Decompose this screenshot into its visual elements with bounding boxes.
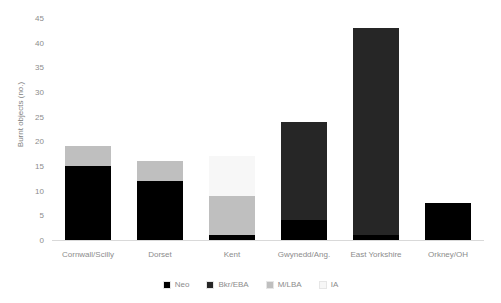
bar-cornwall-scilly[interactable] <box>65 146 111 240</box>
bar-orkney-oh[interactable] <box>425 203 471 240</box>
bar-segment-neo[interactable] <box>353 235 399 240</box>
bar-segment-m-lba[interactable] <box>209 196 255 235</box>
y-axis-tick-15: 15 <box>0 162 44 171</box>
chart-legend: NeoBkr/EBAM/LBAIA <box>0 281 501 289</box>
legend-item-bkr-eba[interactable]: Bkr/EBA <box>206 281 248 289</box>
bar-segment-neo[interactable] <box>65 166 111 240</box>
y-axis-tick-10: 10 <box>0 186 44 195</box>
bar-segment-bkr-eba[interactable] <box>281 122 327 221</box>
plot-area <box>52 18 484 240</box>
y-axis-tick-40: 40 <box>0 38 44 47</box>
bar-kent[interactable] <box>209 156 255 240</box>
chart-container: Burnt objects (no.) 454035302520151050 C… <box>0 0 501 303</box>
bar-segment-m-lba[interactable] <box>65 146 111 166</box>
bar-segment-neo[interactable] <box>425 203 471 240</box>
legend-item-ia[interactable]: IA <box>319 281 339 289</box>
legend-label: IA <box>331 281 339 289</box>
bar-segment-ia[interactable] <box>209 156 255 195</box>
x-axis-label-4: East Yorkshire <box>350 250 401 259</box>
x-axis-label-5: Orkney/OH <box>428 250 468 259</box>
legend-swatch-icon <box>266 281 274 289</box>
bar-segment-m-lba[interactable] <box>137 161 183 181</box>
x-axis-label-2: Kent <box>224 250 240 259</box>
legend-swatch-icon <box>319 281 327 289</box>
bar-segment-neo[interactable] <box>281 220 327 240</box>
bar-segment-neo[interactable] <box>209 235 255 240</box>
legend-label: M/LBA <box>278 281 302 289</box>
legend-item-m-lba[interactable]: M/LBA <box>266 281 302 289</box>
bar-segment-bkr-eba[interactable] <box>353 28 399 235</box>
bar-dorset[interactable] <box>137 161 183 240</box>
y-axis-tick-35: 35 <box>0 63 44 72</box>
y-axis-tick-20: 20 <box>0 137 44 146</box>
legend-label: Neo <box>175 281 190 289</box>
x-axis-label-3: Gwynedd/Ang. <box>278 250 330 259</box>
y-axis-tick-30: 30 <box>0 88 44 97</box>
y-axis-tick-25: 25 <box>0 112 44 121</box>
x-axis-label-1: Dorset <box>148 250 172 259</box>
bar-segment-neo[interactable] <box>137 181 183 240</box>
legend-item-neo[interactable]: Neo <box>163 281 190 289</box>
y-axis-tick-5: 5 <box>0 211 44 220</box>
x-axis-label-0: Cornwall/Scilly <box>62 250 114 259</box>
legend-swatch-icon <box>206 281 214 289</box>
x-axis-line <box>52 240 484 241</box>
y-axis-tick-45: 45 <box>0 14 44 23</box>
bar-east-yorkshire[interactable] <box>353 28 399 240</box>
bar-gwynedd-ang[interactable] <box>281 122 327 240</box>
legend-swatch-icon <box>163 281 171 289</box>
y-axis-tick-0: 0 <box>0 236 44 245</box>
legend-label: Bkr/EBA <box>218 281 248 289</box>
